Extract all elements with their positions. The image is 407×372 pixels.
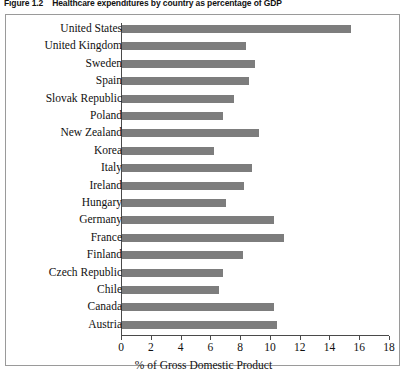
- category-label: Ireland: [0, 180, 122, 191]
- x-axis-tick-label: 10: [257, 341, 283, 353]
- bar: [122, 216, 274, 224]
- bar: [122, 182, 244, 190]
- category-label: Poland: [0, 110, 122, 121]
- bar-chart-plot-area: United StatesUnited KingdomSwedenSpainSl…: [6, 15, 401, 367]
- category-label: New Zealand: [0, 127, 122, 138]
- x-axis-tick: [389, 336, 390, 340]
- x-axis-tick-label: 4: [168, 341, 194, 353]
- category-label: Finland: [0, 249, 122, 260]
- figure-number: Figure 1.2: [4, 0, 43, 8]
- bar: [122, 95, 234, 103]
- bar: [122, 164, 252, 172]
- category-label: Canada: [0, 301, 122, 312]
- bar: [122, 321, 277, 329]
- bar: [122, 269, 223, 277]
- bar: [122, 251, 243, 259]
- category-label: Czech Republic: [0, 267, 122, 278]
- x-axis-tick-label: 0: [108, 341, 134, 353]
- category-label: Korea: [0, 145, 122, 156]
- bar: [122, 25, 351, 33]
- x-axis-tick: [121, 336, 122, 340]
- bar: [122, 112, 223, 120]
- x-axis-tick-label: 16: [346, 341, 372, 353]
- x-axis-tick-label: 2: [138, 341, 164, 353]
- category-label: Austria: [0, 319, 122, 330]
- x-axis-tick-label: 12: [287, 341, 313, 353]
- bar: [122, 42, 246, 50]
- bar: [122, 77, 249, 85]
- bar: [122, 129, 259, 137]
- category-label: France: [0, 232, 122, 243]
- bar: [122, 303, 274, 311]
- x-axis-tick: [181, 336, 182, 340]
- x-axis-tick-label: 8: [227, 341, 253, 353]
- x-axis-tick: [151, 336, 152, 340]
- x-axis-tick-label: 18: [376, 341, 402, 353]
- x-axis-tick: [270, 336, 271, 340]
- x-axis-tick: [359, 336, 360, 340]
- category-label: Sweden: [0, 58, 122, 69]
- category-label: United Kingdom: [0, 40, 122, 51]
- category-label: United States: [0, 23, 122, 34]
- bar: [122, 286, 219, 294]
- bar: [122, 147, 214, 155]
- x-axis-title: % of Gross Domestic Product: [6, 359, 401, 371]
- category-label: Germany: [0, 214, 122, 225]
- category-label: Italy: [0, 162, 122, 173]
- category-label: Chile: [0, 284, 122, 295]
- category-label: Spain: [0, 75, 122, 86]
- x-axis-tick: [329, 336, 330, 340]
- figure-title: Figure 1.2 Healthcare expenditures by co…: [4, 0, 404, 10]
- bar: [122, 234, 284, 242]
- figure-caption: Healthcare expenditures by country as pe…: [52, 0, 282, 8]
- x-axis-tick-label: 14: [316, 341, 342, 353]
- category-label: Hungary: [0, 197, 122, 208]
- x-axis-tick: [240, 336, 241, 340]
- bar: [122, 199, 226, 207]
- x-axis-tick: [210, 336, 211, 340]
- chart-frame: United StatesUnited KingdomSwedenSpainSl…: [5, 14, 400, 366]
- x-axis-tick-label: 6: [197, 341, 223, 353]
- bar: [122, 60, 255, 68]
- x-axis-tick: [300, 336, 301, 340]
- category-label: Slovak Republic: [0, 93, 122, 104]
- x-axis-line: [121, 335, 389, 336]
